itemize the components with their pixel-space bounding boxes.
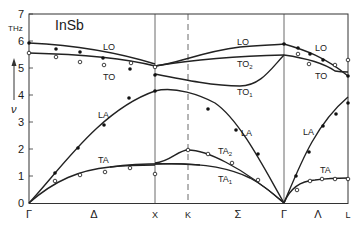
x-label-X: X — [152, 210, 158, 220]
label-LA-xg: LA — [241, 128, 252, 138]
x-label-delta: Δ — [90, 208, 98, 220]
label-TO-gx: TO — [103, 72, 115, 82]
dispersion-curves — [29, 43, 348, 203]
chart-title: InSb — [55, 17, 84, 33]
label-LO-xg: LO — [237, 37, 249, 47]
y-tick-6: 6 — [18, 35, 24, 47]
x-axis-labels: Γ Δ X K Σ Γ Λ L — [26, 208, 351, 220]
label-TA1: TA1 — [218, 174, 233, 185]
label-LA-gl: LA — [303, 127, 314, 137]
y-tick-0: 0 — [18, 197, 24, 209]
label-TO2: TO2 — [237, 59, 253, 70]
label-LO-gx: LO — [103, 42, 115, 52]
curve-TO-gamma-x — [29, 53, 155, 66]
plot-frame — [29, 14, 348, 204]
curve-TO2-x-gamma — [155, 55, 284, 66]
label-TO1: TO1 — [237, 87, 253, 98]
x-label-gamma: Γ — [26, 208, 32, 220]
y-axis-ticks — [29, 14, 33, 176]
label-LA-gx: LA — [98, 110, 109, 120]
curve-TA-gamma-x — [29, 165, 155, 203]
curve-LA-gamma-x — [29, 91, 155, 203]
label-TA2: TA2 — [218, 146, 233, 157]
curve-TO1-x-gamma — [155, 55, 284, 86]
y-tick-3: 3 — [18, 116, 24, 128]
x-label-lambda: Λ — [314, 208, 322, 220]
y-tick-5: 5 — [18, 62, 24, 74]
y-axis-tick-labels: 7 6 5 4 3 2 1 0 — [18, 8, 24, 209]
measured-points-open — [27, 51, 350, 192]
label-TA-gl: TA — [320, 165, 331, 175]
phonon-dispersion-chart: 7 6 5 4 3 2 1 0 THz ν Γ Δ X K Σ Γ Λ L In… — [0, 0, 362, 228]
label-TA-gx: TA — [98, 155, 109, 165]
x-label-K: K — [185, 210, 191, 220]
y-tick-2: 2 — [18, 143, 24, 155]
y-axis-arrow-icon — [12, 58, 17, 100]
y-tick-1: 1 — [18, 170, 24, 182]
x-label-sigma: Σ — [235, 208, 242, 220]
curve-LA-gamma-l — [284, 97, 348, 203]
label-TO-gl: TO — [315, 71, 327, 81]
x-label-L: L — [345, 210, 350, 220]
y-axis-label: ν — [11, 103, 17, 115]
x-label-gamma-2: Γ — [281, 208, 287, 220]
y-tick-4: 4 — [18, 89, 24, 101]
label-LO-gl: LO — [315, 43, 327, 53]
y-tick-7: 7 — [18, 8, 24, 20]
y-unit-label: THz — [8, 24, 23, 33]
